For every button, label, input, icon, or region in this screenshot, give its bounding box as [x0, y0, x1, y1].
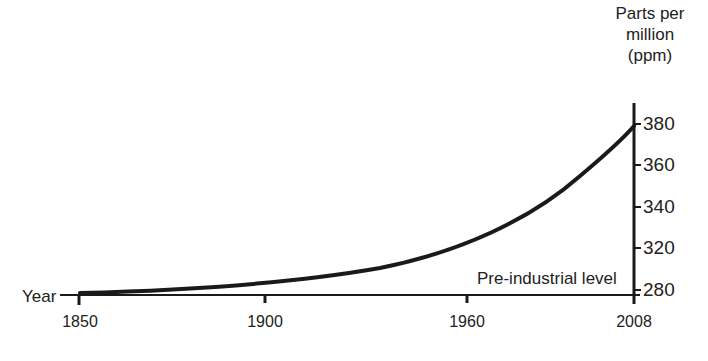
y-tick-label-340: 340 [643, 196, 675, 218]
y-tick-label-320: 320 [643, 237, 675, 259]
x-tick-label-1960: 1960 [449, 313, 485, 331]
y-axis-label-line1: Parts per [600, 3, 700, 24]
x-tick-label-1900: 1900 [247, 313, 283, 331]
y-axis-label-line2: million [600, 24, 700, 45]
x-tick-label-1850: 1850 [62, 313, 98, 331]
co2-curve [80, 126, 634, 293]
x-tick-label-2008: 2008 [616, 313, 652, 331]
y-tick-label-280: 280 [643, 279, 675, 301]
y-tick-label-360: 360 [643, 154, 675, 176]
pre-industrial-level-annotation: Pre-industrial level [477, 269, 617, 289]
x-ticks [79, 295, 467, 305]
x-axis-label: Year [22, 287, 56, 307]
y-axis-label-line3: (ppm) [600, 45, 700, 66]
y-tick-label-380: 380 [643, 113, 675, 135]
y-axis-label: Parts per million (ppm) [600, 3, 700, 66]
